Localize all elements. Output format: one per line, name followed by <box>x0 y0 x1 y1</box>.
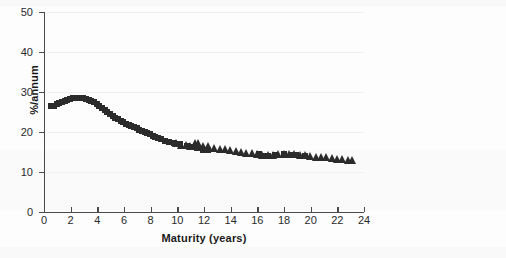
x-tick-label: 16 <box>244 215 270 226</box>
y-tick-label: 10 <box>7 167 33 178</box>
x-tick-label: 2 <box>58 215 84 226</box>
y-tick-label: 40 <box>7 47 33 58</box>
x-tick-label: 4 <box>84 215 110 226</box>
yield-curve-figure: %/annum Maturity (years) 010203040500246… <box>0 0 506 258</box>
y-tick-label: 20 <box>7 127 33 138</box>
x-tick-label: 10 <box>164 215 190 226</box>
x-tick-label: 22 <box>324 215 350 226</box>
x-axis-label: Maturity (years) <box>44 232 364 244</box>
y-tick-label: 30 <box>7 87 33 98</box>
scan-artifact-top <box>0 0 506 6</box>
y-tick-label: 50 <box>7 7 33 18</box>
x-tick-label: 18 <box>271 215 297 226</box>
x-tick-label: 14 <box>218 215 244 226</box>
x-tick-label: 24 <box>351 215 377 226</box>
x-tick-label: 8 <box>138 215 164 226</box>
x-tick-label: 20 <box>298 215 324 226</box>
scan-artifact-bottom <box>0 247 506 258</box>
x-tick-label: 0 <box>31 215 57 226</box>
x-tick-label: 6 <box>111 215 137 226</box>
y-tick-label: 0 <box>7 207 33 218</box>
data-point-triangle <box>348 156 356 164</box>
x-tick <box>364 207 365 212</box>
x-tick-label: 12 <box>191 215 217 226</box>
plot-area <box>44 12 364 212</box>
